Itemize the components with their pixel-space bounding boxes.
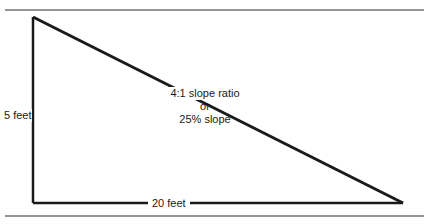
slope-or-text: or (146, 100, 264, 113)
slope-ratio-text: 4:1 slope ratio (168, 87, 241, 100)
height-label: 5 feet (4, 109, 32, 122)
slope-percent-text: 25% slope (146, 113, 264, 126)
base-label: 20 feet (148, 197, 190, 210)
slope-label: 4:1 slope ratio or 25% slope (146, 87, 264, 126)
